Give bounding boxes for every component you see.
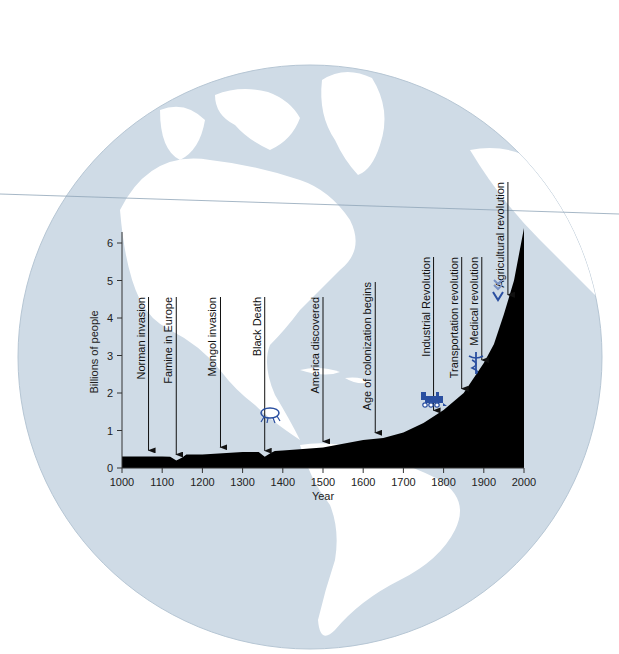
event-label: Age of colonization begins — [361, 282, 373, 411]
x-axis-title: Year — [312, 490, 335, 502]
y-tick-label: 3 — [107, 350, 113, 362]
y-tick-label: 1 — [107, 425, 113, 437]
event-label: Mongol invasion — [206, 297, 218, 377]
x-tick-label: 1300 — [230, 476, 254, 488]
y-tick-label: 5 — [107, 275, 113, 287]
x-tick-label: 1800 — [431, 476, 455, 488]
x-tick-label: 1500 — [311, 476, 335, 488]
x-tick-label: 1900 — [472, 476, 496, 488]
y-tick-label: 4 — [107, 312, 113, 324]
event-label: Agricultural revolution — [494, 182, 506, 288]
event-label: Famine in Europe — [162, 297, 174, 384]
y-tick-label: 6 — [107, 237, 113, 249]
event-label: Transportation revolution — [448, 257, 460, 378]
x-tick-label: 1100 — [150, 476, 174, 488]
x-tick-label: 2000 — [512, 476, 536, 488]
event-label: America discovered — [309, 297, 321, 394]
y-axis-title: Billions of people — [88, 310, 100, 393]
population-chart-figure: Norman invasionFamine in EuropeMongol in… — [0, 0, 619, 654]
y-tick-label: 0 — [107, 462, 113, 474]
x-tick-label: 1200 — [190, 476, 214, 488]
event-label: Norman invasion — [135, 297, 147, 380]
x-tick-label: 1700 — [391, 476, 415, 488]
event-label: Black Death — [251, 297, 263, 356]
x-tick-label: 1600 — [351, 476, 375, 488]
y-tick-label: 2 — [107, 387, 113, 399]
event-label: Industrial Revolution — [420, 257, 432, 357]
x-tick-label: 1400 — [271, 476, 295, 488]
x-tick-label: 1000 — [110, 476, 134, 488]
event-label: Medical revolution — [468, 257, 480, 346]
